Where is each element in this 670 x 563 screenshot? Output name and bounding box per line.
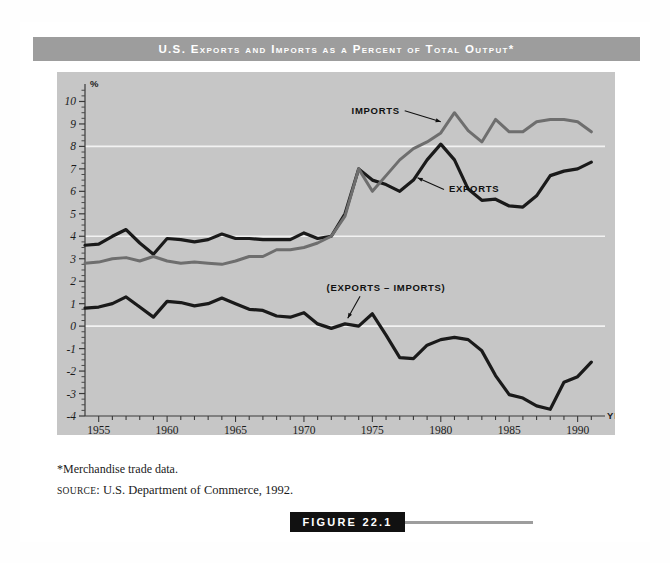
annotation-arrowhead (435, 118, 440, 122)
annotation-leader (405, 111, 441, 122)
figure-tag-rule (405, 521, 533, 524)
annotation-arrowhead (348, 313, 352, 318)
annotation-exports-imports: (EXPORTS – IMPORTS) (327, 282, 446, 318)
figure-number-tag: FIGURE 22.1 (290, 512, 405, 532)
x-tick-label: 1965 (224, 424, 247, 435)
y-tick-label: 9 (70, 118, 76, 130)
figure-number-label: FIGURE 22.1 (302, 516, 392, 528)
y-tick-label: -4 (66, 410, 76, 422)
x-tick-label: 1985 (498, 424, 521, 435)
x-axis-title: YEAR (607, 410, 615, 421)
line-chart: 109876543210-1-2-3-419551960196519701975… (57, 72, 615, 435)
y-tick-label: 0 (70, 320, 76, 332)
x-tick-label: 1990 (566, 424, 589, 435)
figure-title: U.S. Exports and Imports as a Percent of… (33, 37, 640, 61)
annotation-label: EXPORTS (449, 183, 499, 194)
y-tick-label: 8 (70, 140, 76, 152)
x-tick-label: 1970 (292, 424, 315, 435)
annotation-label: (EXPORTS – IMPORTS) (327, 282, 446, 293)
series-line-exports (85, 144, 591, 254)
y-tick-label: 10 (65, 95, 77, 107)
y-tick-label: 5 (70, 208, 76, 220)
y-tick-label: 4 (70, 230, 76, 242)
y-tick-label: 1 (70, 298, 76, 310)
series-line-imports (85, 113, 591, 265)
y-tick-label: 7 (70, 163, 77, 175)
y-tick-label: -3 (66, 388, 76, 400)
source-text: : U.S. Department of Commerce, 1992. (96, 483, 293, 497)
annotation-label: IMPORTS (352, 105, 400, 116)
x-tick-label: 1980 (429, 424, 452, 435)
annotation-exports: EXPORTS (418, 178, 500, 195)
annotation-arrowhead (418, 178, 423, 182)
y-axis-title: % (90, 78, 99, 89)
figure-title-bar: U.S. Exports and Imports as a Percent of… (33, 37, 640, 61)
series-line-exports-imports (85, 297, 591, 409)
x-tick-label: 1960 (156, 424, 179, 435)
y-tick-label: 6 (70, 185, 76, 197)
y-tick-label: -2 (66, 365, 76, 377)
x-tick-label: 1955 (87, 424, 110, 435)
chart-plot-area: 109876543210-1-2-3-419551960196519701975… (57, 72, 615, 435)
figure-source: SOURCE: U.S. Department of Commerce, 199… (57, 483, 293, 498)
figure-footnote: *Merchandise trade data. (57, 462, 178, 477)
source-prefix: SOURCE (57, 486, 96, 496)
annotation-imports: IMPORTS (352, 105, 441, 122)
x-tick-label: 1975 (361, 424, 384, 435)
figure-page: U.S. Exports and Imports as a Percent of… (0, 0, 670, 563)
y-tick-label: 3 (69, 253, 76, 265)
y-tick-label: -1 (66, 343, 76, 355)
y-tick-label: 2 (70, 275, 76, 287)
